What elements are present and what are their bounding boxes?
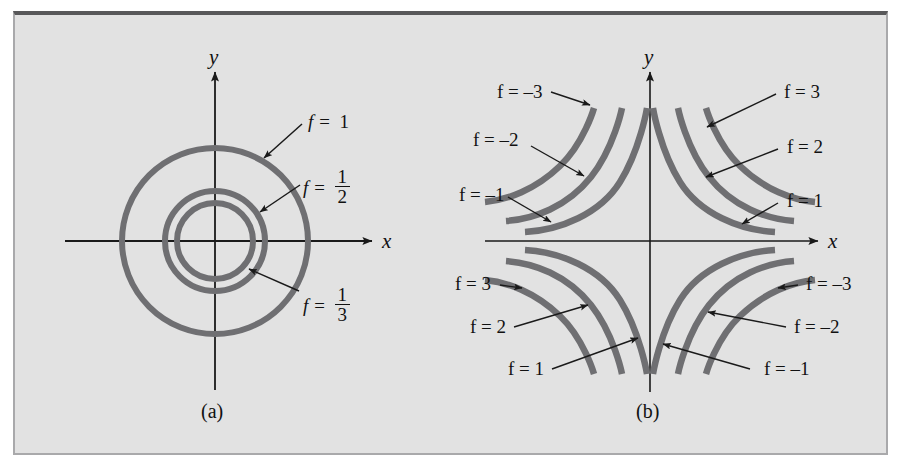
leader-line-b-f-minus-2-lr xyxy=(708,312,786,327)
leader-line-b-f-minus-3-ul xyxy=(551,92,590,105)
panel-b-y-axis-label: y xyxy=(644,45,653,70)
label-b-f-minus-1-upper-left: f = –1 xyxy=(459,185,505,204)
leader-line-f-1 xyxy=(264,124,302,158)
label-b-f-2-upper-right: f = 2 xyxy=(787,137,823,156)
label-b-f-2-lower-left: f = 2 xyxy=(470,317,506,336)
label-b-f-minus-2-lower-right: f = –2 xyxy=(794,317,840,336)
leader-line-b-f-3-ur xyxy=(707,94,776,127)
label-b-f-3-lower-left: f = 3 xyxy=(455,274,491,293)
label-f-equals-one-third-lhs: f = xyxy=(303,295,326,316)
label-b-f-3-upper-right: f = 3 xyxy=(784,82,820,101)
label-f-equals-1-value: 1 xyxy=(340,112,350,131)
panel-b-group xyxy=(485,72,818,392)
fraction-one-third-numerator: 1 xyxy=(335,285,351,305)
fraction-one-half-numerator: 1 xyxy=(335,167,351,187)
label-f-equals-1-lhs: f = xyxy=(308,111,331,132)
panel-a-x-axis-label: x xyxy=(382,229,391,254)
leader-line-b-f-1-ll xyxy=(552,338,638,369)
label-b-f-minus-3-lower-right: f = –3 xyxy=(806,274,852,293)
panel-a-y-axis-label: y xyxy=(209,45,218,70)
leader-line-b-f-2-ur xyxy=(706,149,778,177)
label-b-f-1-lower-left: f = 1 xyxy=(508,359,544,378)
label-b-f-minus-3-upper-left: f = –3 xyxy=(497,82,543,101)
panel-a-caption: (a) xyxy=(201,400,223,423)
fraction-one-third: 1 3 xyxy=(335,285,351,325)
label-f-equals-one-third: f = 1 3 xyxy=(303,286,350,326)
fraction-one-half-denominator: 2 xyxy=(335,187,351,206)
label-f-equals-1: f = 1 xyxy=(308,110,349,131)
figure-vector-canvas xyxy=(0,0,903,469)
panel-b-caption: (b) xyxy=(636,400,659,423)
label-b-f-1-upper-right: f = 1 xyxy=(787,191,823,210)
fraction-one-half: 1 2 xyxy=(335,167,351,207)
label-f-equals-one-half-lhs: f = xyxy=(303,177,326,198)
label-f-equals-one-half: f = 1 2 xyxy=(303,168,350,208)
panel-b-x-axis-label: x xyxy=(828,229,837,254)
figure-root: y x f = 1 f = 1 2 f = 1 3 (a) y x f = –3… xyxy=(0,0,903,469)
fraction-one-third-denominator: 3 xyxy=(335,305,351,324)
leader-line-f-one-half xyxy=(260,185,300,212)
leader-line-f-one-third xyxy=(249,269,299,291)
label-b-f-minus-2-upper-left: f = –2 xyxy=(473,130,519,149)
label-b-f-minus-1-lower-right: f = –1 xyxy=(764,359,810,378)
